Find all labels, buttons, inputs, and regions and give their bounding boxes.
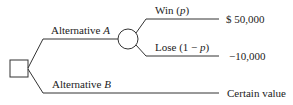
label-lose: Lose (1 − p) <box>155 42 209 53</box>
chance-node <box>118 29 138 49</box>
branch-alternative-a <box>28 39 118 68</box>
label-alternative-b: Alternative B <box>52 79 111 90</box>
decision-node <box>10 60 28 77</box>
label-text: Lose (1 − <box>155 41 200 53</box>
branch-win <box>136 19 219 33</box>
label-close: ) <box>206 41 210 53</box>
label-close: ) <box>185 4 189 16</box>
label-win: Win (p) <box>155 5 189 16</box>
label-text: Alternative <box>51 24 103 36</box>
label-text: Win ( <box>155 4 180 16</box>
payoff-certain: Certain value <box>227 88 286 99</box>
decision-tree-diagram: Alternative A Alternative B Win (p) Lose… <box>0 0 293 105</box>
label-var: A <box>103 24 110 36</box>
label-alternative-a: Alternative A <box>51 25 110 36</box>
payoff-win: $ 50,000 <box>226 14 265 25</box>
label-text: Alternative <box>52 78 104 90</box>
payoff-lose: −10,000 <box>229 51 265 62</box>
label-var: B <box>104 78 111 90</box>
